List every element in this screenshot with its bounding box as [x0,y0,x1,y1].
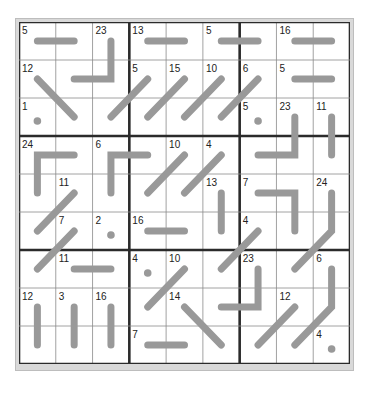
grid-cell[interactable] [93,98,130,136]
grid-cell[interactable] [203,288,240,326]
grid-cell[interactable] [276,326,313,364]
grid-cell[interactable] [129,98,166,136]
grid-cell[interactable] [166,326,203,364]
grid-cell[interactable] [166,22,203,60]
grid-cell[interactable] [19,174,56,212]
cell-clue: 16 [279,26,290,36]
cell-clue: 23 [96,26,107,36]
cell-clue: 4 [243,216,249,226]
cell-clue: 13 [206,178,217,188]
grid-cell[interactable] [166,174,203,212]
grid-cell[interactable] [93,174,130,212]
cell-clue: 4 [132,254,138,264]
cell-clue: 10 [169,140,180,150]
cell-clue: 12 [22,64,33,74]
cell-clue: 16 [132,216,143,226]
puzzle-stage: 5231351612515106515231124610411137247216… [0,0,368,397]
grid-cell[interactable] [166,212,203,250]
cell-clue: 5 [279,64,285,74]
cell-clue: 7 [243,178,249,188]
grid-cell[interactable] [93,250,130,288]
grid-cell[interactable] [240,326,277,364]
cell-clue: 10 [169,254,180,264]
cell-clue: 14 [169,292,180,302]
puzzle-board[interactable]: 5231351612515106515231124610411137247216… [19,22,350,364]
cell-clue: 6 [96,140,102,150]
grid-cell[interactable] [313,60,350,98]
grid-cell[interactable] [313,136,350,174]
grid-cell[interactable] [19,250,56,288]
cell-clue: 6 [243,64,249,74]
cell-clue: 4 [316,330,322,340]
grid-cell[interactable] [313,212,350,250]
cell-clue: 5 [132,64,138,74]
grid-cell[interactable] [56,326,93,364]
grid-cell[interactable] [203,212,240,250]
grid-cell[interactable] [93,326,130,364]
cell-clue: 12 [279,292,290,302]
grid-cell[interactable] [56,60,93,98]
grid-cell[interactable] [56,136,93,174]
grid-cell[interactable] [203,326,240,364]
cell-clue: 23 [243,254,254,264]
grid-cell[interactable] [276,174,313,212]
grid-cell[interactable] [129,288,166,326]
grid-cell[interactable] [129,174,166,212]
cell-clue: 3 [59,292,65,302]
grid-cell[interactable] [276,136,313,174]
cell-clue: 11 [59,178,69,188]
cell-clue: 12 [22,292,33,302]
grid-cell[interactable] [203,250,240,288]
grid-cell[interactable] [276,250,313,288]
cell-clue: 4 [206,140,212,150]
cell-clue: 2 [96,216,102,226]
cell-clue: 5 [206,26,212,36]
cell-clue: 24 [316,178,327,188]
cell-clue: 7 [59,216,65,226]
grid-cell[interactable] [129,136,166,174]
grid-cell[interactable] [313,288,350,326]
grid-cell[interactable] [240,136,277,174]
grid-cell[interactable] [276,212,313,250]
cell-clue: 23 [279,102,290,112]
grid-cell[interactable] [19,326,56,364]
grid-cell[interactable] [240,288,277,326]
grid-cell[interactable] [93,60,130,98]
grid-cell[interactable] [166,98,203,136]
cell-clue: 13 [132,26,143,36]
cell-clue: 5 [22,26,28,36]
grid-cell[interactable] [19,212,56,250]
grid-cell[interactable] [56,98,93,136]
cell-clue: 11 [59,254,69,264]
grid-cell[interactable] [240,22,277,60]
cell-clue: 15 [169,64,180,74]
grid-cell[interactable] [203,98,240,136]
cell-clue: 11 [316,102,326,112]
cell-clue: 1 [22,102,28,112]
cell-clue: 10 [206,64,217,74]
cell-clue: 16 [96,292,107,302]
cell-clue: 5 [243,102,249,112]
cell-clue: 24 [22,140,33,150]
grid-cell[interactable] [56,22,93,60]
cell-clue: 6 [316,254,322,264]
grid-cell[interactable] [313,22,350,60]
cell-clue: 7 [132,330,138,340]
